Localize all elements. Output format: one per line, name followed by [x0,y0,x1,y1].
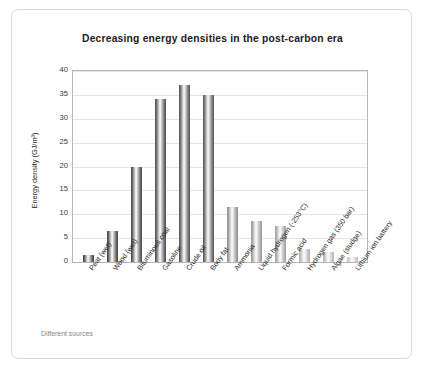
y-tick-label: 20 [46,162,68,170]
bar-series [73,71,367,262]
y-tick-label: 15 [46,185,68,193]
y-axis: Energy density (GJ/m³) 0510152025303540 [40,70,68,263]
source-note: Different sources [41,330,93,337]
x-label-slot: Body fat [196,265,220,353]
bar-slot [292,71,316,262]
y-tick-label: 10 [46,209,68,217]
x-label-slot: Wood (wet) [99,265,123,353]
y-tick-label: 35 [46,90,68,98]
x-label-slot: Peat (wet) [75,265,99,353]
bar-slot [76,71,100,262]
x-label-slot: Lithium ion battery [341,265,365,353]
y-tick-label: 25 [46,138,68,146]
x-label-slot: Algae (sludge) [317,265,341,353]
x-label-slot: Crude oil [172,265,196,353]
x-label-slot: Gasoline [148,265,172,353]
bar-slot [124,71,148,262]
bar [179,85,190,262]
bar-slot [244,71,268,262]
y-axis-title: Energy density (GJ/m³) [30,101,39,241]
x-label-slot: Bituminous coal [123,265,147,353]
bar [251,221,262,262]
bar [203,95,214,262]
chart-card: Decreasing energy densities in the post-… [11,9,412,359]
bar-slot [220,71,244,262]
bar-slot [100,71,124,262]
x-label-slot: Ammonia [220,265,244,353]
x-label-slot: Formic acid [268,265,292,353]
x-axis-labels: Peat (wet)Wood (wet)Bituminous coalGasol… [72,265,368,353]
x-label-slot: Hydrogen gas (350 bar) [293,265,317,353]
bar-slot [172,71,196,262]
y-tick-label: 5 [46,233,68,241]
x-label-slot: Liquid hydrogen (-253°C) [244,265,268,353]
bar-slot [196,71,220,262]
y-tick-label: 30 [46,114,68,122]
plot-area [72,70,368,263]
chart-title: Decreasing energy densities in the post-… [12,33,413,44]
y-tick-label: 0 [46,257,68,265]
y-tick-label: 40 [46,66,68,74]
